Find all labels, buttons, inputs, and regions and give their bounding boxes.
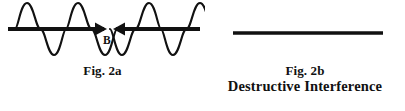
point-label-b: B — [103, 35, 111, 47]
caption-fig-2a: Fig. 2a — [0, 63, 205, 78]
wave-diagram-2a — [0, 0, 205, 60]
caption-fig-2b-title: Fig. 2b — [205, 63, 405, 78]
resultant-line-diagram-2b — [205, 0, 405, 60]
figure-panel-2b: Fig. 2b Destructive Interference — [205, 0, 405, 111]
figure-panel-2a: B Fig. 2a — [0, 0, 205, 111]
caption-fig-2b: Fig. 2b Destructive Interference — [205, 63, 405, 95]
figure-root: B Fig. 2a Fig. 2b Destructive Interferen… — [0, 0, 405, 111]
caption-fig-2b-subtitle: Destructive Interference — [205, 78, 405, 95]
